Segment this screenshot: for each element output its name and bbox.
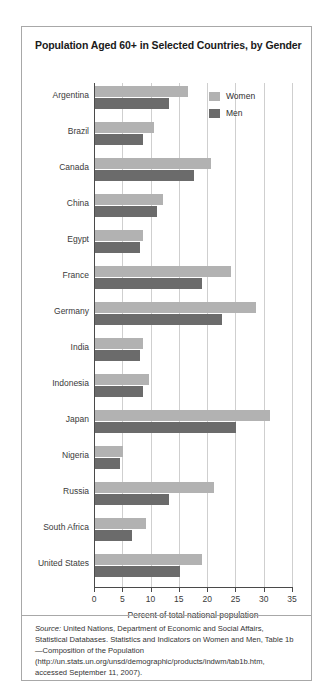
bar-women <box>95 374 149 385</box>
bar-group: Nigeria <box>95 443 293 479</box>
category-label: United States <box>38 558 89 568</box>
legend-swatch-men <box>209 109 220 118</box>
bar-group: Indonesia <box>95 371 293 407</box>
bar-men <box>95 206 157 217</box>
bar-group: Canada <box>95 155 293 191</box>
bar-women <box>95 518 146 529</box>
bar-men <box>95 530 132 541</box>
bar-men <box>95 98 169 109</box>
tick-label-30: 30 <box>259 594 268 604</box>
bar-group: Egypt <box>95 227 293 263</box>
plot-area: ArgentinaBrazilCanadaChinaEgyptFranceGer… <box>94 83 292 587</box>
bar-group: Argentina <box>95 83 293 119</box>
bar-men <box>95 386 143 397</box>
chart-title: Population Aged 60+ in Selected Countrie… <box>35 39 305 52</box>
tick-mark-15 <box>179 588 180 592</box>
tick-mark-30 <box>264 588 265 592</box>
bar-men <box>95 422 236 433</box>
bar-women <box>95 86 188 97</box>
tick-label-5: 5 <box>120 594 125 604</box>
bar-men <box>95 566 180 577</box>
category-label: Argentina <box>53 90 89 100</box>
bar-group: France <box>95 263 293 299</box>
source-label: Source: <box>35 624 61 633</box>
category-label: Nigeria <box>62 450 89 460</box>
bar-group: Japan <box>95 407 293 443</box>
bar-women <box>95 338 143 349</box>
bar-women <box>95 302 256 313</box>
bar-women <box>95 482 214 493</box>
tick-mark-35 <box>292 588 293 592</box>
tick-label-25: 25 <box>231 594 240 604</box>
bar-men <box>95 242 140 253</box>
bar-women <box>95 554 202 565</box>
bar-men <box>95 314 222 325</box>
bar-men <box>95 350 140 361</box>
tick-mark-0 <box>94 588 95 592</box>
tick-label-20: 20 <box>202 594 211 604</box>
category-label: Germany <box>54 306 89 316</box>
bar-group: India <box>95 335 293 371</box>
legend-label-women: Women <box>226 91 255 101</box>
legend-item-men: Men <box>209 106 255 120</box>
category-label: Indonesia <box>52 378 89 388</box>
category-label: Canada <box>59 162 89 172</box>
bar-group: United States <box>95 551 293 587</box>
category-label: China <box>67 198 89 208</box>
bar-women <box>95 266 231 277</box>
bar-men <box>95 458 120 469</box>
bar-group: South Africa <box>95 515 293 551</box>
bar-group: Brazil <box>95 119 293 155</box>
source-note: Source: United Nations, Department of Ec… <box>35 623 297 678</box>
tick-mark-5 <box>122 588 123 592</box>
bar-women <box>95 446 123 457</box>
bar-women <box>95 122 154 133</box>
y-axis-line <box>94 83 95 588</box>
legend-label-men: Men <box>226 108 243 118</box>
category-label: India <box>71 342 89 352</box>
bar-men <box>95 494 169 505</box>
bar-group: Germany <box>95 299 293 335</box>
bar-men <box>95 278 202 289</box>
category-label: France <box>63 270 89 280</box>
bar-men <box>95 170 194 181</box>
chart-figure: Population Aged 60+ in Selected Countrie… <box>21 26 312 681</box>
bar-women <box>95 410 270 421</box>
tick-mark-20 <box>207 588 208 592</box>
tick-label-15: 15 <box>174 594 183 604</box>
chart-legend: Women Men <box>209 89 255 123</box>
legend-swatch-women <box>209 92 220 101</box>
bar-men <box>95 134 143 145</box>
bar-women <box>95 194 163 205</box>
legend-item-women: Women <box>209 89 255 103</box>
bar-group: Russia <box>95 479 293 515</box>
category-label: South Africa <box>43 522 89 532</box>
bar-women <box>95 230 143 241</box>
tick-mark-25 <box>235 588 236 592</box>
source-divider <box>22 615 311 616</box>
category-label: Brazil <box>68 126 89 136</box>
category-label: Egypt <box>67 234 89 244</box>
category-label: Japan <box>66 414 89 424</box>
tick-label-35: 35 <box>287 594 296 604</box>
tick-mark-10 <box>151 588 152 592</box>
source-text: United Nations, Department of Economic a… <box>35 624 293 677</box>
bar-group: China <box>95 191 293 227</box>
tick-label-10: 10 <box>146 594 155 604</box>
tick-label-0: 0 <box>92 594 97 604</box>
category-label: Russia <box>63 486 89 496</box>
bar-women <box>95 158 211 169</box>
